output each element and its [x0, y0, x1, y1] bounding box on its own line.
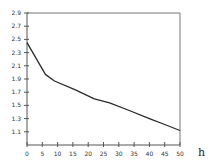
line-chart: 1.11.31.51.71.92.12.32.52.72.9 051015202… [0, 0, 212, 166]
x-tick-label: 10 [54, 150, 62, 157]
x-tick-label: 35 [130, 150, 138, 157]
y-tick-label: 2.7 [11, 22, 21, 29]
x-axis: 05101520253035404550 [25, 142, 184, 157]
y-tick-label: 1.9 [11, 75, 21, 82]
y-tick-label: 2.5 [11, 35, 21, 42]
x-tick-label: 40 [146, 150, 154, 157]
y-tick-label: 1.7 [11, 88, 21, 95]
y-tick-label: 2.9 [11, 9, 21, 16]
series-line [27, 43, 180, 131]
x-tick-label: 25 [100, 150, 108, 157]
y-axis: 1.11.31.51.71.92.12.32.52.72.9 [11, 9, 29, 145]
x-tick-label: 15 [69, 150, 77, 157]
y-tick-label: 1.3 [11, 115, 21, 122]
x-axis-unit-label: h [198, 146, 205, 159]
plot-frame [27, 13, 180, 145]
y-tick-label: 2.1 [11, 62, 21, 69]
y-tick-label: 1.1 [11, 128, 21, 135]
x-tick-label: 45 [161, 150, 169, 157]
x-tick-label: 50 [176, 150, 184, 157]
y-tick-label: 2.3 [11, 49, 21, 56]
x-tick-label: 20 [84, 150, 92, 157]
x-tick-label: 30 [115, 150, 123, 157]
y-tick-label: 1.5 [11, 101, 21, 108]
x-tick-label: 0 [25, 150, 29, 157]
x-tick-label: 5 [40, 150, 44, 157]
data-series [27, 43, 180, 131]
